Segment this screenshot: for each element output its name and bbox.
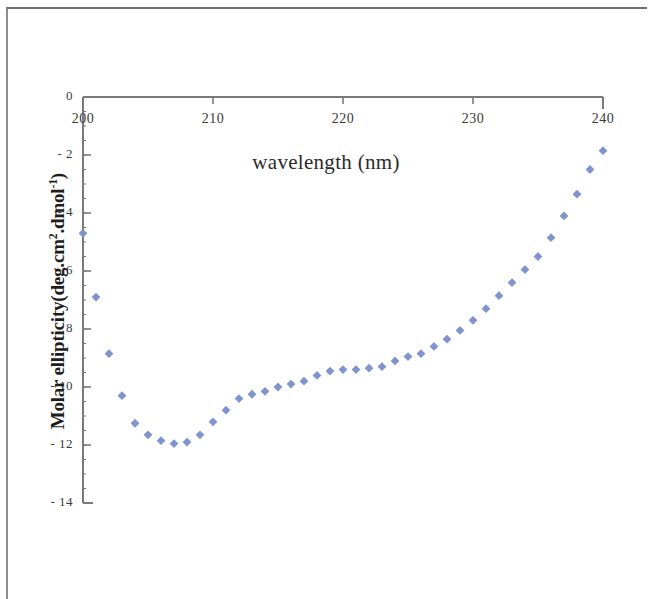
data-point-marker [521,265,530,274]
data-point-marker [144,430,153,439]
data-point-marker [274,383,283,392]
x-axis-title: wavelength (nm) [196,150,456,175]
data-point-marker [287,380,296,389]
data-point-marker [391,357,400,366]
data-point-marker [599,146,608,155]
data-point-marker [404,352,413,361]
data-point-marker [79,229,88,238]
data-point-marker [573,190,582,199]
data-point-marker [495,291,504,300]
data-point-marker [586,165,595,174]
data-point-marker [417,349,426,358]
data-point-marker [339,365,348,374]
data-point-marker [248,390,257,399]
data-point-marker [547,233,556,242]
y-axis-title-end: ) [47,173,68,179]
data-point-marker [131,419,140,428]
y-axis-title-middle: .dmol [47,189,68,234]
data-point-marker [456,326,465,335]
data-point-marker [92,293,101,302]
data-point-marker [157,436,166,445]
data-point-markers [79,146,608,448]
data-point-marker [261,387,270,396]
data-point-marker [313,371,322,380]
data-point-marker [365,364,374,373]
data-point-marker [326,367,335,376]
data-point-marker [534,252,543,261]
data-point-marker [105,349,114,358]
x-tick-label: 220 [320,111,366,127]
data-point-marker [118,391,127,400]
data-point-marker [196,430,205,439]
data-point-marker [378,362,387,371]
x-tick-label: 240 [580,111,626,127]
data-point-marker [482,304,491,313]
data-point-marker [222,406,231,415]
data-point-marker [560,212,569,221]
data-point-marker [508,278,517,287]
data-point-marker [352,365,361,374]
data-point-marker [300,377,309,386]
data-point-marker [469,316,478,325]
data-point-marker [209,417,218,426]
x-tick-label: 210 [190,111,236,127]
data-point-marker [183,438,192,447]
data-point-marker [443,335,452,344]
x-tick-label: 230 [450,111,496,127]
y-axis-title-superscript-2: 2 [47,234,60,240]
y-axis-title: Molar ellipticity(deg.cm2.dmol-1) [47,91,69,511]
data-point-marker [170,439,179,448]
y-axis-title-superscript-minus1: -1 [47,179,60,188]
data-point-marker [235,394,244,403]
data-point-marker [430,342,439,351]
y-axis-title-main: Molar ellipticity(deg.cm [47,239,68,429]
